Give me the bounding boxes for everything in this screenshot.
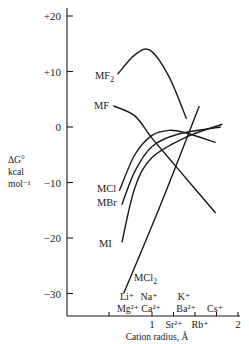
cation-label: Na⁺ bbox=[141, 291, 158, 302]
series-curve bbox=[122, 124, 223, 242]
y-tick-label: −30 bbox=[44, 288, 62, 300]
cation-label: Sr²⁺ bbox=[165, 319, 182, 330]
y-axis-title: kcal bbox=[8, 167, 24, 177]
axes bbox=[67, 8, 240, 316]
labels: +20+100−10−20−3012Li⁺Na⁺K⁺Mg²⁺Ca²⁺Ba²⁺Cs… bbox=[8, 10, 241, 342]
series-curve bbox=[124, 106, 200, 294]
cation-label: Mg²⁺ bbox=[117, 303, 139, 314]
series-label: MF bbox=[94, 100, 109, 111]
y-tick-label: −10 bbox=[44, 177, 62, 189]
y-tick-label: 0 bbox=[56, 121, 62, 133]
series-label: MBr bbox=[97, 197, 117, 208]
cation-label: Li⁺ bbox=[120, 291, 134, 302]
series-label: MI bbox=[99, 238, 112, 249]
y-axis-title: ΔG° bbox=[8, 155, 25, 165]
x-tick-label: 2 bbox=[235, 318, 241, 330]
cation-label: Ba²⁺ bbox=[176, 303, 195, 314]
x-axis-title: Cation radius, Å bbox=[126, 331, 189, 342]
cation-label: K⁺ bbox=[178, 291, 191, 302]
chart-svg: +20+100−10−20−3012Li⁺Na⁺K⁺Mg²⁺Ca²⁺Ba²⁺Cs… bbox=[0, 0, 249, 344]
cation-label: Ca²⁺ bbox=[141, 303, 160, 314]
cation-label: Cs⁺ bbox=[207, 303, 223, 314]
series-curve bbox=[113, 106, 215, 213]
series-label: MCl bbox=[97, 183, 116, 194]
cation-label: Rb⁺ bbox=[192, 319, 209, 330]
series-curve bbox=[118, 49, 187, 119]
x-tick-label: 1 bbox=[149, 318, 155, 330]
y-tick-label: +20 bbox=[44, 10, 62, 22]
curves bbox=[113, 49, 222, 294]
y-axis-title: mol⁻¹ bbox=[8, 179, 31, 189]
y-tick-label: +10 bbox=[44, 66, 62, 78]
y-tick-label: −20 bbox=[44, 232, 62, 244]
series-label: MF2 bbox=[95, 70, 114, 84]
series-curve bbox=[119, 130, 215, 191]
series-label: MCl2 bbox=[134, 272, 157, 286]
